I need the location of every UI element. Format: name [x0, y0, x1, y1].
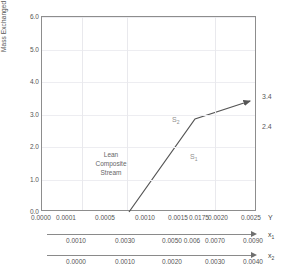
axis-name-Y: Y [268, 214, 273, 221]
gridline-horizontal [42, 82, 255, 83]
x2-axis-line [47, 255, 253, 256]
value-2-4: 2.4 [262, 123, 272, 130]
axis-tick-label: 0.0015 [168, 214, 188, 221]
gridline-horizontal [42, 180, 255, 181]
plot-area: Lean Composite Stream S2 S1 [41, 16, 256, 211]
gridline-horizontal [42, 17, 255, 18]
y-tick-label: 6.0 [9, 13, 39, 20]
axis-tick-label: 0.0020 [208, 214, 228, 221]
axis-tick-label: 0.0020 [162, 258, 182, 265]
lean-composite-stream-label-line1: Lean [82, 150, 140, 159]
segment-label-s2: S2 [172, 116, 179, 125]
y-tick-label: 1.0 [9, 175, 39, 182]
axis-tick-label: 0.0030 [115, 237, 135, 244]
gridline-vertical [127, 17, 128, 210]
axis-tick-label: 0.0175 [189, 214, 209, 221]
axis-tick-label: 0.0070 [205, 237, 225, 244]
lean-composite-stream-label-line2: Composite [82, 159, 140, 168]
axis-tick-label: 0.0090 [243, 237, 263, 244]
lean-composite-stream-label: Lean Composite Stream [82, 150, 140, 177]
lean-composite-stream-label-line3: Stream [82, 168, 140, 177]
segment-label-s1-sub: 1 [195, 156, 198, 162]
y-axis-tick-labels: 0.01.02.03.04.05.06.0 [6, 16, 39, 211]
gridline-vertical [82, 17, 83, 210]
axis-tick-label: 0.0005 [95, 214, 115, 221]
x1-axis-line [47, 234, 253, 235]
axis-name-x2-sub: 2 [272, 255, 275, 261]
axis-tick-label: 0.0030 [205, 258, 225, 265]
chart-root: Mass Exchanged 10-4 kg mol benzene/s 0.0… [0, 0, 295, 276]
axis-name-x2: x2 [268, 252, 274, 261]
axis-name-x1-sub: 1 [272, 234, 275, 240]
axis-tick-label: 0.0001 [56, 214, 76, 221]
axis-name-x1: x1 [268, 231, 274, 240]
axis-tick-label: 0.0000 [66, 258, 86, 265]
gridline-horizontal [42, 115, 255, 116]
segment-label-s2-sub: 2 [177, 119, 180, 125]
y-tick-label: 3.0 [9, 110, 39, 117]
y-tick-label: 5.0 [9, 45, 39, 52]
y-tick-label: 2.0 [9, 143, 39, 150]
y-concentration-axis: 0.00000.00010.00050.00100.00150.01750.00… [0, 214, 295, 226]
axis-tick-label: 0.0000 [31, 214, 51, 221]
segment-label-s1: S1 [190, 153, 197, 162]
axis-tick-label: 0.0010 [135, 214, 155, 221]
axis-tick-label: 0.0025 [241, 214, 261, 221]
axis-tick-label: 0.0040 [243, 258, 263, 265]
axis-tick-label: 0.0050 [162, 237, 182, 244]
x2-axis-tick-labels: 0.00000.00100.00200.00300.0040 [0, 258, 295, 270]
cut-off-header-strip [0, 0, 295, 13]
axis-tick-label: 0.0010 [115, 258, 135, 265]
value-3-4: 3.4 [262, 93, 272, 100]
axis-tick-label: 0.0010 [66, 237, 86, 244]
gridline-horizontal [42, 147, 255, 148]
axis-tick-label: 0.006 [184, 237, 200, 244]
gridline-horizontal [42, 50, 255, 51]
x1-axis-tick-labels: 0.00100.00300.00500.0060.00700.0090 [0, 237, 295, 249]
gridline-vertical [215, 17, 216, 210]
y-tick-label: 4.0 [9, 78, 39, 85]
